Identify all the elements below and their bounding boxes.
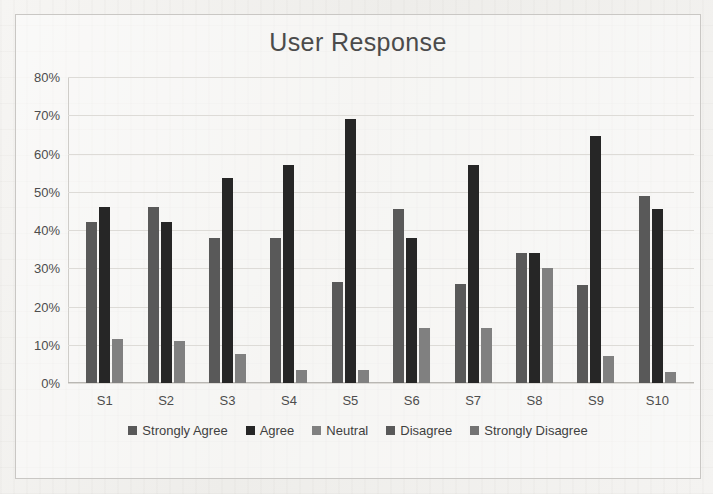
legend-swatch-icon [128,426,137,435]
legend-swatch-icon [386,426,395,435]
x-axis-tick-label: S2 [135,393,196,408]
bar [112,339,123,383]
bar [358,370,369,383]
bar-group [74,77,135,383]
legend-item[interactable]: Strongly Disagree [470,423,587,438]
legend-label: Agree [260,423,295,438]
legend-swatch-icon [312,426,321,435]
bar [99,207,110,383]
gridline [68,383,694,384]
bar [332,282,343,383]
bar-group [258,77,319,383]
y-axis-tick-label: 50% [34,184,60,199]
x-axis-tick-label: S9 [565,393,626,408]
bar-group [135,77,196,383]
bar [468,165,479,383]
x-axis-tick-label: S3 [197,393,258,408]
bar-group [504,77,565,383]
bar [652,209,663,383]
y-axis-tick-label: 60% [34,146,60,161]
legend-swatch-icon [470,426,479,435]
bar-group [381,77,442,383]
x-axis-tick-label: S4 [258,393,319,408]
bar [455,284,466,383]
bar [529,253,540,383]
x-axis-tick-label: S10 [627,393,688,408]
bar [639,196,650,383]
y-axis-tick-label: 0% [41,376,60,391]
x-axis-tick-labels: S1S2S3S4S5S6S7S8S9S10 [68,393,694,408]
legend-label: Disagree [400,423,452,438]
bar [542,268,553,383]
bar-group [197,77,258,383]
plot-area: 0%10%20%30%40%50%60%70%80% [68,77,694,383]
y-axis-tick-label: 80% [34,70,60,85]
x-axis-tick-label: S5 [320,393,381,408]
bar [270,238,281,383]
bar [283,165,294,383]
y-axis-tick-label: 30% [34,261,60,276]
y-axis-tick-label: 20% [34,299,60,314]
bar [665,372,676,383]
bar [148,207,159,383]
x-axis-tick-label: S7 [442,393,503,408]
bar [161,222,172,383]
bar [406,238,417,383]
x-axis-tick-label: S8 [504,393,565,408]
bar [419,328,430,383]
bar [345,119,356,383]
bar-group [627,77,688,383]
legend-label: Strongly Disagree [484,423,587,438]
bar [516,253,527,383]
bar [209,238,220,383]
bar [86,222,97,383]
bar [603,356,614,383]
bar [481,328,492,383]
chart-legend: Strongly AgreeAgreeNeutralDisagreeStrong… [16,423,700,438]
legend-swatch-icon [246,426,255,435]
chart-frame: User Response 0%10%20%30%40%50%60%70%80%… [15,14,701,479]
x-axis-tick-label: S1 [74,393,135,408]
legend-item[interactable]: Neutral [312,423,368,438]
x-axis-tick-label: S6 [381,393,442,408]
bar [174,341,185,383]
legend-item[interactable]: Strongly Agree [128,423,227,438]
legend-label: Neutral [326,423,368,438]
legend-item[interactable]: Agree [246,423,295,438]
y-axis-tick-label: 10% [34,337,60,352]
bar [590,136,601,383]
bar-groups [68,77,694,383]
bar [577,285,588,383]
bar-group [320,77,381,383]
y-axis-tick-label: 40% [34,223,60,238]
bar-group [442,77,503,383]
chart-title: User Response [16,28,700,57]
bar [296,370,307,383]
bar-group [565,77,626,383]
y-axis-tick-label: 70% [34,108,60,123]
bar [222,178,233,383]
bar [393,209,404,383]
legend-label: Strongly Agree [142,423,227,438]
legend-item[interactable]: Disagree [386,423,452,438]
bar [235,354,246,383]
